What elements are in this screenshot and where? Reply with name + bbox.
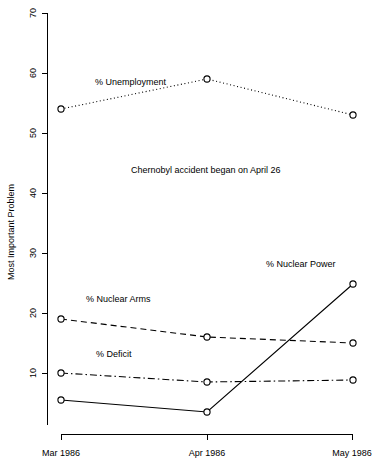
line-chart: 10 20 30 40 50 60 70 Most Important Prob… bbox=[0, 0, 374, 476]
x-axis bbox=[61, 435, 353, 441]
nuclear-power-point-mar bbox=[58, 397, 64, 403]
unemployment-point-mar bbox=[58, 106, 64, 112]
nuclear-power-point-may bbox=[350, 281, 356, 287]
y-axis-title: Most Important Problem bbox=[6, 184, 16, 280]
series-unemployment: % Unemployment bbox=[58, 76, 356, 118]
chart-container: 10 20 30 40 50 60 70 Most Important Prob… bbox=[0, 0, 374, 476]
y-tick-label-70: 70 bbox=[28, 8, 38, 18]
x-tick-label-mar-1986: Mar 1986 bbox=[42, 448, 80, 458]
y-tick-label-40: 40 bbox=[28, 188, 38, 198]
series-label-nuclear-power: % Nuclear Power bbox=[266, 259, 336, 269]
y-axis-ticks bbox=[42, 14, 48, 374]
unemployment-point-may bbox=[350, 112, 356, 118]
series-label-nuclear-arms: % Nuclear Arms bbox=[86, 294, 151, 304]
chernobyl-annotation: Chernobyl accident began on April 26 bbox=[131, 165, 281, 175]
y-tick-label-60: 60 bbox=[28, 68, 38, 78]
deficit-point-apr bbox=[204, 379, 210, 385]
nuclear-arms-point-mar bbox=[58, 316, 64, 322]
series-deficit: % Deficit bbox=[58, 349, 356, 385]
y-tick-label-20: 20 bbox=[28, 308, 38, 318]
y-tick-label-50: 50 bbox=[28, 128, 38, 138]
y-tick-label-10: 10 bbox=[28, 368, 38, 378]
unemployment-point-apr bbox=[204, 76, 210, 82]
x-tick-label-apr-1986: Apr 1986 bbox=[189, 448, 226, 458]
nuclear-arms-point-may bbox=[350, 340, 356, 346]
x-axis-tick-labels: Mar 1986 Apr 1986 May 1986 bbox=[42, 448, 372, 458]
series-label-unemployment: % Unemployment bbox=[95, 77, 167, 87]
nuclear-power-point-apr bbox=[204, 409, 210, 415]
series-label-deficit: % Deficit bbox=[96, 349, 132, 359]
deficit-point-mar bbox=[58, 370, 64, 376]
y-axis-tick-labels: 10 20 30 40 50 60 70 bbox=[28, 8, 38, 378]
x-tick-label-may-1986: May 1986 bbox=[332, 448, 372, 458]
nuclear-arms-point-apr bbox=[204, 334, 210, 340]
deficit-point-may bbox=[350, 377, 356, 383]
y-tick-label-30: 30 bbox=[28, 248, 38, 258]
